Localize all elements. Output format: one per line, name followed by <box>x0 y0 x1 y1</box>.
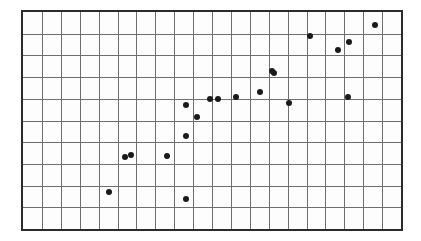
data-point <box>271 70 277 76</box>
data-point <box>346 39 352 45</box>
data-point <box>194 114 200 120</box>
data-point <box>164 153 170 159</box>
scatter-plot-figure <box>0 0 421 241</box>
data-point <box>183 133 189 139</box>
data-point <box>233 94 239 100</box>
data-point <box>207 96 213 102</box>
data-points-layer <box>23 12 401 229</box>
data-point <box>345 94 351 100</box>
data-point <box>106 189 112 195</box>
data-point <box>335 47 341 53</box>
data-point <box>128 152 134 158</box>
data-point <box>257 89 263 95</box>
data-point <box>215 96 221 102</box>
data-point <box>183 102 189 108</box>
plot-area <box>21 10 403 231</box>
data-point <box>286 100 292 106</box>
data-point <box>372 22 378 28</box>
data-point <box>183 196 189 202</box>
data-point <box>307 33 313 39</box>
